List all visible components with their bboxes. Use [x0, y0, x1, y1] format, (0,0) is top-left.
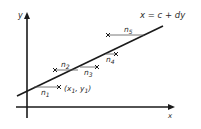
residual-n4: n4	[106, 52, 118, 65]
residual-n1: n1	[34, 85, 61, 98]
svg-text:n3: n3	[84, 68, 93, 78]
y-axis	[24, 12, 30, 118]
x-axis-label: x	[167, 112, 173, 120]
residual-subscript: 4	[111, 58, 115, 65]
y-axis-arrow-icon	[24, 12, 30, 19]
svg-text:n2: n2	[61, 60, 70, 70]
x-axis	[16, 104, 175, 110]
equation-label: x = c + dy	[139, 10, 186, 20]
residual-n3: n3	[80, 65, 99, 78]
residual-n5: n5	[106, 25, 144, 37]
point-label: (x1, y1)	[64, 84, 91, 94]
y-axis-label: y	[17, 11, 23, 20]
residual-subscript: 1	[46, 91, 50, 98]
residual-subscript: 2	[66, 63, 70, 70]
residual-n2: n2	[53, 60, 78, 72]
svg-text:n1: n1	[41, 88, 50, 98]
residual-subscript: 3	[89, 71, 93, 78]
svg-text:n5: n5	[124, 25, 133, 35]
x-axis-arrow-icon	[168, 104, 175, 110]
regression-diagram: y x x = c + dy n5 n4 n2 n3	[0, 0, 201, 129]
residual-subscript: 5	[129, 28, 133, 35]
svg-text:n4: n4	[106, 55, 115, 65]
